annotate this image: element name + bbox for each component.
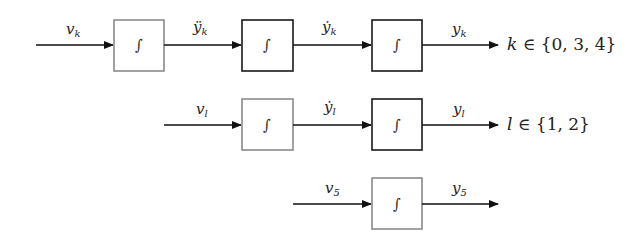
signal-label-ydot-k: ẏk <box>322 20 337 37</box>
integral-icon: ∫ <box>393 116 401 134</box>
signal-label-vl: vl <box>196 102 208 119</box>
integral-icon: ∫ <box>263 116 271 134</box>
row-k: ∫ ∫ ∫ <box>36 20 498 71</box>
signal-label-yddot-k: ÿk <box>193 20 208 37</box>
block-diagram: ∫ ∫ ∫ ∫ ∫ ∫ vk ÿk ẏk yk k <box>0 0 642 242</box>
integral-icon: ∫ <box>393 195 401 213</box>
row-5: ∫ <box>293 178 498 229</box>
signal-label-v5: v5 <box>325 181 340 198</box>
index-set-k: k ∈ {0, 3, 4} <box>507 36 616 53</box>
signal-label-ydot-l: ẏl <box>324 100 336 117</box>
signal-label-y-k: yk <box>452 22 467 39</box>
integral-icon: ∫ <box>263 36 271 54</box>
signal-label-y5: y5 <box>452 181 467 198</box>
integral-icon: ∫ <box>135 36 143 54</box>
signal-label-vk: vk <box>66 22 81 39</box>
signal-label-y-l: yl <box>453 102 465 119</box>
index-set-l: l ∈ {1, 2} <box>507 116 590 133</box>
integral-icon: ∫ <box>393 36 401 54</box>
